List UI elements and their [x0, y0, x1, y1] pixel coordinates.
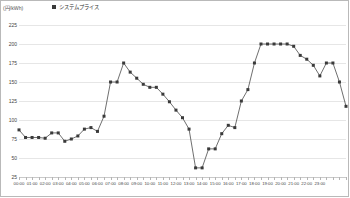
x-tick: [313, 177, 314, 180]
x-tick: [333, 177, 334, 180]
data-point: [220, 132, 223, 135]
x-tick-label: 21:00: [288, 181, 299, 186]
data-point: [299, 54, 302, 57]
x-tick: [287, 177, 288, 180]
y-tick-label: 175: [9, 61, 17, 66]
system-price-chart: (円/kWh) システムプライス 22520017515012510075502…: [0, 0, 350, 198]
data-point: [273, 43, 276, 46]
data-point: [233, 126, 236, 129]
x-tick: [326, 177, 327, 180]
x-tick-label: 14:00: [197, 181, 208, 186]
x-tick: [104, 177, 105, 180]
data-point: [109, 81, 112, 84]
y-tick-label: 125: [9, 99, 17, 104]
data-point: [57, 131, 60, 134]
x-tick-label: 10:00: [144, 181, 155, 186]
data-point: [214, 147, 217, 150]
x-tick: [183, 177, 184, 180]
data-point: [174, 109, 177, 112]
x-tick-label: 06:00: [92, 181, 103, 186]
y-tick-label: 225: [9, 23, 17, 28]
y-tick-label: 200: [9, 42, 17, 47]
x-tick: [176, 177, 177, 180]
y-tick-label: 50: [11, 156, 17, 161]
x-tick: [137, 177, 138, 180]
x-tick: [248, 177, 249, 180]
data-point: [44, 137, 47, 140]
x-tick: [228, 177, 229, 180]
data-point: [201, 166, 204, 169]
x-tick-label: 00:00: [14, 181, 25, 186]
x-tick-label: 08:00: [118, 181, 129, 186]
x-tick-label: 07:00: [105, 181, 116, 186]
data-point: [31, 136, 34, 139]
data-point: [259, 43, 262, 46]
data-point: [305, 58, 308, 61]
x-tick-label: 23:00: [314, 181, 325, 186]
data-point: [331, 62, 334, 65]
x-tick: [78, 177, 79, 180]
data-point: [318, 74, 321, 77]
data-point: [240, 100, 243, 103]
x-tick-label: 13:00: [184, 181, 195, 186]
data-point: [161, 93, 164, 96]
data-point: [116, 81, 119, 84]
data-point: [50, 131, 53, 134]
x-tick: [274, 177, 275, 180]
x-tick: [156, 177, 157, 180]
data-point: [76, 134, 79, 137]
x-tick: [32, 177, 33, 180]
y-axis: 225200175150125100755025: [0, 25, 17, 177]
x-tick-label: 17:00: [236, 181, 247, 186]
x-tick: [346, 177, 347, 180]
x-tick: [91, 177, 92, 180]
data-point: [253, 62, 256, 65]
x-tick: [261, 177, 262, 180]
legend-item-label: システムプライス: [59, 4, 99, 10]
x-tick-label: 04:00: [66, 181, 77, 186]
x-tick-label: 19:00: [262, 181, 273, 186]
x-tick: [202, 177, 203, 180]
x-tick: [222, 177, 223, 180]
data-point: [207, 147, 210, 150]
x-tick: [254, 177, 255, 180]
data-point: [325, 62, 328, 65]
x-tick: [268, 177, 269, 180]
data-point: [181, 116, 184, 119]
data-point: [292, 45, 295, 48]
data-point: [345, 105, 348, 108]
x-tick-label: 11:00: [158, 181, 168, 186]
y-tick-label: 25: [11, 175, 17, 180]
x-tick: [19, 177, 20, 180]
x-tick-label: 20:00: [275, 181, 286, 186]
x-tick: [300, 177, 301, 180]
data-point: [103, 115, 106, 118]
x-tick: [26, 177, 27, 180]
data-point: [24, 136, 27, 139]
x-tick: [196, 177, 197, 180]
x-tick: [65, 177, 66, 180]
x-tick: [189, 177, 190, 180]
data-point: [266, 43, 269, 46]
x-tick: [58, 177, 59, 180]
x-tick: [71, 177, 72, 180]
series-line: [19, 44, 346, 168]
data-point: [96, 130, 99, 133]
data-point: [312, 64, 315, 67]
x-tick-label: 02:00: [40, 181, 51, 186]
x-tick: [52, 177, 53, 180]
x-tick: [117, 177, 118, 180]
data-point: [279, 43, 282, 46]
x-tick-label: 09:00: [131, 181, 142, 186]
data-point: [246, 88, 249, 91]
x-tick: [124, 177, 125, 180]
data-point: [227, 124, 230, 127]
data-point: [135, 77, 138, 80]
data-point: [37, 136, 40, 139]
x-tick-label: 18:00: [249, 181, 260, 186]
data-point: [155, 86, 158, 89]
x-tick: [209, 177, 210, 180]
x-tick: [241, 177, 242, 180]
data-point: [89, 126, 92, 129]
y-tick-label: 75: [11, 137, 17, 142]
